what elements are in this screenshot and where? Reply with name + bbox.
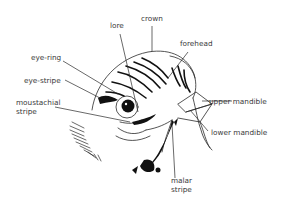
leader-eye-ring — [63, 61, 118, 94]
label-forehead: forehead — [180, 39, 213, 48]
label-crown: crown — [141, 14, 163, 23]
label-upper-mandible: upper mandible — [209, 97, 267, 106]
bird-head-diagram: lore crown forehead eye-ring eye-stripe … — [0, 0, 290, 206]
label-malar-stripe: malar stripe — [171, 176, 192, 194]
eye — [122, 100, 135, 113]
label-moustachial-stripe: moustachial stripe — [16, 98, 61, 116]
label-lore: lore — [110, 21, 124, 30]
label-eye-stripe: eye-stripe — [24, 76, 61, 85]
label-eye-ring: eye-ring — [31, 53, 61, 62]
leader-malar — [172, 124, 175, 178]
label-lower-mandible: lower mandible — [211, 128, 267, 137]
leader-eye-stripe — [65, 80, 100, 98]
